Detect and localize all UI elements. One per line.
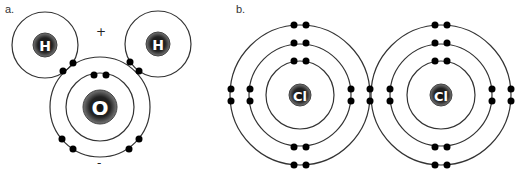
chlorine-atom-right: Cl [371, 25, 511, 165]
atom-symbol: H [39, 38, 51, 54]
hydrogen-atom-right: H [125, 11, 191, 77]
atom-symbol: Cl [434, 89, 448, 104]
water-molecule: H H O [12, 11, 191, 157]
chlorine-molecule: Cl Cl [228, 22, 515, 169]
atom-symbol: O [91, 96, 108, 120]
atom-symbol: Cl [293, 89, 307, 104]
atom-symbol: H [152, 37, 164, 53]
chlorine-atom-left: Cl [230, 25, 370, 165]
bonding-diagram: H H O [0, 0, 518, 174]
